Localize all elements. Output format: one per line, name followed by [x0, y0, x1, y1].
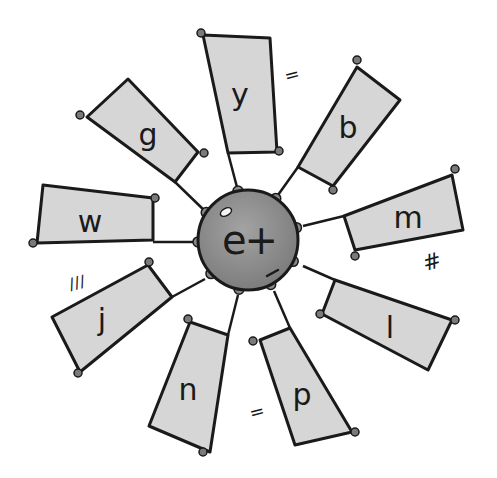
pin-icon — [275, 147, 283, 155]
pin-icon — [316, 310, 324, 318]
spoke-card-y — [203, 35, 277, 153]
pin-icon — [329, 186, 337, 194]
spoke-card-p — [260, 328, 352, 445]
pin-icon — [351, 252, 359, 260]
connector-line-j — [172, 279, 205, 297]
pin-icon — [184, 315, 192, 323]
pin-icon — [249, 337, 257, 345]
pin-icon — [200, 149, 208, 157]
connector-line-m — [303, 216, 344, 226]
connector-line-l — [303, 266, 335, 280]
connector-line-b — [278, 167, 298, 195]
pin-icon — [74, 369, 82, 377]
connector-line-y — [228, 153, 238, 191]
connector-line-n — [228, 295, 238, 335]
pin-icon — [451, 165, 459, 173]
pin-icon — [451, 316, 459, 324]
spoke-card-m — [344, 175, 463, 250]
pin-icon — [197, 29, 205, 37]
pin-icon — [76, 111, 84, 119]
spoke-card-w — [37, 185, 153, 243]
pin-icon — [199, 448, 207, 456]
pin-icon — [145, 258, 153, 266]
pin-icon — [29, 239, 37, 247]
pin-icon — [353, 56, 361, 64]
spoke-card-b — [298, 67, 400, 186]
pin-icon — [351, 428, 359, 436]
word-wheel-diagram: ybmlpnjwg e+ =#=/// — [0, 0, 497, 478]
spoke-card-n — [149, 322, 228, 452]
spoke-card-g — [87, 79, 198, 182]
connector-line-g — [175, 182, 207, 213]
pin-icon — [151, 194, 159, 202]
spoke-card-l — [322, 280, 452, 370]
connector-line-p — [274, 291, 290, 328]
center-label: e+ — [222, 220, 276, 260]
